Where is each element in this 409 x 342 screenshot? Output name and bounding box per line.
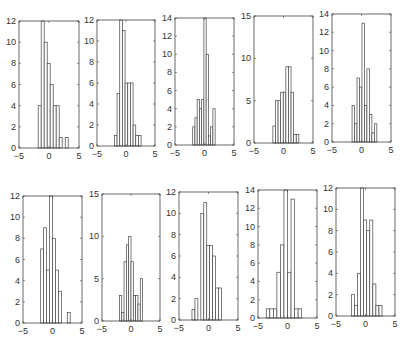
histogram-bar bbox=[47, 270, 50, 323]
y-tick-label: 4 bbox=[250, 276, 255, 286]
histogram-bar bbox=[56, 106, 59, 148]
histogram-bar bbox=[275, 101, 278, 143]
histogram-bars bbox=[352, 23, 377, 142]
histogram-bars bbox=[119, 236, 142, 321]
histogram-bar bbox=[67, 312, 70, 323]
y-tick-label: 4 bbox=[328, 268, 333, 278]
histogram-bar bbox=[270, 309, 274, 318]
x-tick-label: 5 bbox=[388, 145, 393, 155]
y-tick-label: 4 bbox=[15, 276, 20, 286]
x-tick-label: 0 bbox=[128, 324, 133, 334]
y-tick-label: 14 bbox=[162, 13, 172, 23]
y-tick-label: 2 bbox=[15, 297, 20, 307]
histogram-bar bbox=[207, 245, 210, 320]
y-tick-label: 10 bbox=[6, 37, 16, 47]
y-tick-label: 12 bbox=[323, 183, 333, 193]
histogram-bar bbox=[41, 21, 44, 148]
x-tick-label: 0 bbox=[359, 145, 364, 155]
y-tick-label: 2 bbox=[89, 120, 94, 130]
histogram-bar bbox=[373, 284, 376, 316]
y-tick-label: 12 bbox=[162, 31, 172, 41]
histogram-bar bbox=[374, 124, 376, 142]
y-tick-label: 10 bbox=[10, 212, 20, 222]
histogram-bar bbox=[213, 256, 216, 320]
histogram-bar bbox=[210, 245, 213, 320]
histogram-bars bbox=[266, 190, 301, 318]
histogram-bar bbox=[219, 288, 222, 320]
histogram-bar bbox=[122, 31, 125, 147]
histogram-bar bbox=[206, 54, 208, 145]
y-tick-label: 12 bbox=[6, 16, 16, 26]
histogram-bar bbox=[354, 305, 357, 316]
histogram-bar bbox=[201, 213, 204, 320]
y-tick-label: 0 bbox=[324, 137, 329, 147]
x-tick-label: 5 bbox=[79, 326, 84, 336]
histogram-bar bbox=[53, 106, 56, 148]
histogram-bar bbox=[216, 288, 219, 320]
histogram-bar bbox=[355, 124, 357, 142]
histogram-bars bbox=[38, 21, 68, 148]
x-tick-label: 5 bbox=[310, 146, 315, 156]
y-tick-label: 0 bbox=[11, 143, 16, 153]
histogram-bar bbox=[44, 42, 47, 148]
y-tick-label: 4 bbox=[89, 99, 94, 109]
y-tick-label: 2 bbox=[250, 295, 255, 305]
histogram-bar bbox=[362, 23, 364, 142]
histogram-bar bbox=[273, 126, 276, 143]
y-tick-label: 12 bbox=[84, 15, 94, 25]
y-tick-label: 15 bbox=[241, 11, 251, 21]
histogram-bar bbox=[59, 137, 62, 148]
histogram-bar bbox=[286, 67, 289, 143]
histogram-bar bbox=[288, 272, 292, 318]
histogram-bar bbox=[136, 136, 139, 147]
y-tick-label: 8 bbox=[11, 58, 16, 68]
subplot-r1c5: −50502468101214 bbox=[319, 9, 394, 155]
histogram-bar bbox=[280, 245, 284, 318]
histogram-bar bbox=[359, 87, 361, 142]
y-tick-label: 4 bbox=[324, 100, 329, 110]
y-tick-label: 2 bbox=[11, 122, 16, 132]
histogram-bar bbox=[125, 83, 128, 146]
subplot-r1c4: −505051015 bbox=[241, 11, 316, 156]
y-tick-label: 12 bbox=[245, 203, 255, 213]
y-tick-label: 0 bbox=[250, 313, 255, 323]
histogram-bar bbox=[38, 106, 41, 148]
histogram-bar bbox=[41, 249, 44, 323]
y-tick-label: 2 bbox=[324, 119, 329, 129]
histogram-bar bbox=[120, 20, 123, 146]
histogram-bar bbox=[195, 299, 198, 320]
histogram-bar bbox=[357, 78, 359, 142]
histogram-bars bbox=[192, 203, 222, 320]
subplot-r1c2: −505024681012 bbox=[84, 15, 158, 159]
y-tick-label: 10 bbox=[162, 49, 172, 59]
x-tick-label: 0 bbox=[281, 146, 286, 156]
y-tick-label: 10 bbox=[241, 53, 251, 63]
histogram-bar bbox=[291, 92, 294, 143]
histogram-bar bbox=[117, 94, 120, 147]
histogram-bar bbox=[50, 85, 53, 149]
y-tick-label: 12 bbox=[166, 187, 176, 197]
y-tick-label: 0 bbox=[94, 316, 99, 326]
histogram-bar bbox=[298, 309, 302, 318]
x-tick-label: 5 bbox=[392, 319, 397, 329]
y-tick-label: 0 bbox=[15, 318, 20, 328]
y-tick-label: 8 bbox=[89, 57, 94, 67]
subplot-r2c1: −505024681012 bbox=[10, 191, 85, 336]
histogram-bar bbox=[114, 136, 117, 147]
x-tick-label: 0 bbox=[202, 148, 207, 158]
y-tick-label: 6 bbox=[89, 78, 94, 88]
x-tick-label: 0 bbox=[46, 151, 51, 161]
y-tick-label: 5 bbox=[246, 96, 251, 106]
histogram-bars bbox=[351, 188, 382, 316]
histogram-bar bbox=[277, 272, 281, 318]
x-tick-label: 5 bbox=[157, 324, 162, 334]
histogram-bar bbox=[53, 238, 56, 323]
histogram-bar bbox=[361, 188, 364, 316]
histogram-bars bbox=[41, 196, 70, 323]
y-tick-label: 10 bbox=[245, 222, 255, 232]
histogram-bar bbox=[367, 69, 369, 142]
histogram-bars bbox=[273, 67, 299, 143]
histogram-bar bbox=[65, 137, 68, 148]
histogram-bar bbox=[372, 133, 374, 142]
histogram-bar bbox=[47, 63, 50, 148]
